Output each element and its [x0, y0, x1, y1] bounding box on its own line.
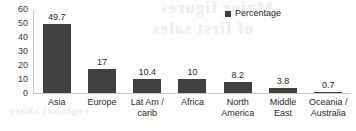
bar-slot: 49.7 [34, 10, 79, 93]
category-label-line: Oceania / [306, 97, 351, 108]
y-axis-tick-10: 10 [18, 75, 28, 84]
chart-legend: Percentage [225, 9, 281, 18]
bar [178, 79, 206, 93]
category-label-line: Australia [306, 108, 351, 119]
bar-slot: 10 [170, 10, 215, 93]
y-axis-tick-30: 30 [18, 47, 28, 56]
y-axis-tick-50: 50 [18, 19, 28, 28]
bar-slot: 8.2 [215, 10, 260, 93]
y-axis-tick-20: 20 [18, 61, 28, 70]
category-label-line: Middle [260, 97, 305, 108]
y-axis-tick-labels: 6050403020100 [0, 9, 31, 93]
category-label-line: East [260, 108, 305, 119]
bar-value-label: 8.2 [232, 71, 245, 80]
category-label-line: America [215, 108, 260, 119]
bar [133, 79, 161, 93]
x-axis-category-label: Oceania /Australia [306, 97, 351, 119]
legend-swatch-icon [225, 11, 231, 17]
category-label-line: Asia [34, 97, 79, 108]
bar-slot: 3.8 [260, 10, 305, 93]
x-axis-category-label: MiddleEast [260, 97, 305, 119]
category-label-line: North [215, 97, 260, 108]
x-axis-category-label: NorthAmerica [215, 97, 260, 119]
bar-slot: 0.7 [306, 10, 351, 93]
bar-value-label: 49.7 [48, 13, 66, 22]
y-axis-tick-40: 40 [18, 33, 28, 42]
bar-value-label: 17 [97, 58, 107, 67]
legend-label: Percentage [235, 9, 281, 18]
x-axis-line [33, 93, 351, 94]
bar-chart: Major figures of first sales regional sh… [0, 0, 356, 131]
bar-value-label: 10 [187, 68, 197, 77]
bar-slot: 10.4 [125, 10, 170, 93]
category-label-line: Lat Am / [125, 97, 170, 108]
x-axis-category-label: Lat Am /carib [125, 97, 170, 119]
y-axis-tick-60: 60 [18, 5, 28, 14]
bar [88, 69, 116, 93]
x-axis-category-labels: AsiaEuropeLat Am /caribAfricaNorthAmeric… [34, 97, 351, 129]
plot-area: 49.71710.4108.23.80.7 [34, 10, 351, 93]
bar-value-label: 0.7 [322, 81, 335, 90]
y-axis-line [33, 10, 34, 93]
x-axis-category-label: Europe [79, 97, 124, 108]
category-label-line: Europe [79, 97, 124, 108]
x-axis-category-label: Asia [34, 97, 79, 108]
y-axis-tick-0: 0 [23, 89, 28, 98]
bar [224, 82, 252, 93]
x-axis-category-label: Africa [170, 97, 215, 108]
category-label-line: Africa [170, 97, 215, 108]
bar-value-label: 10.4 [138, 68, 156, 77]
bar-slot: 17 [79, 10, 124, 93]
category-label-line: carib [125, 108, 170, 119]
bar [43, 24, 71, 93]
bar-value-label: 3.8 [277, 77, 290, 86]
